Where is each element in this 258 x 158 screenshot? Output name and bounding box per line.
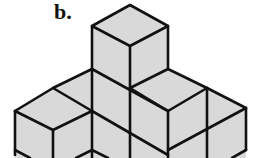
isometric-cube-stack xyxy=(0,0,258,158)
